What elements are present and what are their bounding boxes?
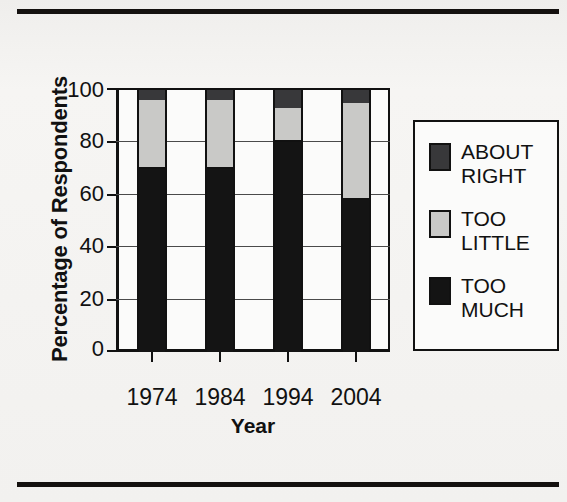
y-tick-40 (107, 246, 116, 248)
segment-too-much (139, 169, 165, 352)
about-right-swatch-icon (429, 143, 451, 171)
x-tick-label-1994: 1994 (262, 384, 313, 411)
segment-about-right (275, 90, 301, 108)
y-tick-60 (107, 194, 116, 196)
segment-about-right (207, 90, 233, 100)
chart-legend: ABOUT RIGHT TOO LITTLE TOO MUCH (413, 120, 559, 351)
x-tick-label-1974: 1974 (126, 384, 177, 411)
segment-too-much (275, 142, 301, 352)
y-axis-title: Percentage of Respondents (47, 69, 73, 369)
bar-1984[interactable] (205, 88, 235, 352)
segment-too-little (207, 100, 233, 168)
y-tick-80 (107, 141, 116, 143)
x-tick-1994 (287, 352, 289, 362)
x-tick-2004 (355, 352, 357, 362)
y-tick-100 (107, 88, 116, 90)
legend-label-too-much: TOO MUCH (461, 274, 524, 321)
x-tick-label-1984: 1984 (194, 384, 245, 411)
y-tick-label-80: 80 (80, 128, 104, 154)
stacked-bar-chart-figure: Percentage of Respondents 100 80 60 40 2… (0, 14, 567, 480)
segment-too-much (207, 169, 233, 352)
segment-too-much (343, 200, 369, 352)
too-much-swatch-icon (429, 277, 451, 305)
segment-too-little (343, 103, 369, 200)
y-tick-label-20: 20 (80, 286, 104, 312)
x-tick-1974 (151, 352, 153, 362)
segment-about-right (343, 90, 369, 103)
bar-2004[interactable] (341, 88, 371, 352)
plot-area: 100 80 60 40 20 0 (116, 88, 390, 352)
x-axis-title: Year (116, 414, 390, 438)
legend-item-about-right[interactable]: ABOUT RIGHT (429, 140, 557, 187)
legend-item-too-much[interactable]: TOO MUCH (429, 274, 557, 321)
legend-label-too-little: TOO LITTLE (461, 207, 530, 254)
legend-label-about-right: ABOUT RIGHT (461, 140, 533, 187)
x-tick-1984 (219, 352, 221, 362)
y-tick-label-40: 40 (80, 233, 104, 259)
y-tick-label-100: 100 (67, 77, 104, 103)
legend-item-too-little[interactable]: TOO LITTLE (429, 207, 557, 254)
y-tick-0 (107, 350, 116, 352)
bar-1974[interactable] (137, 88, 167, 352)
page-rule-bottom (17, 482, 559, 487)
x-tick-label-2004: 2004 (330, 384, 381, 411)
segment-too-little (139, 100, 165, 168)
y-tick-label-0: 0 (92, 336, 104, 362)
y-tick-label-60: 60 (80, 181, 104, 207)
segment-about-right (139, 90, 165, 100)
y-tick-20 (107, 299, 116, 301)
too-little-swatch-icon (429, 210, 451, 238)
bar-1994[interactable] (273, 88, 303, 352)
segment-too-little (275, 108, 301, 142)
